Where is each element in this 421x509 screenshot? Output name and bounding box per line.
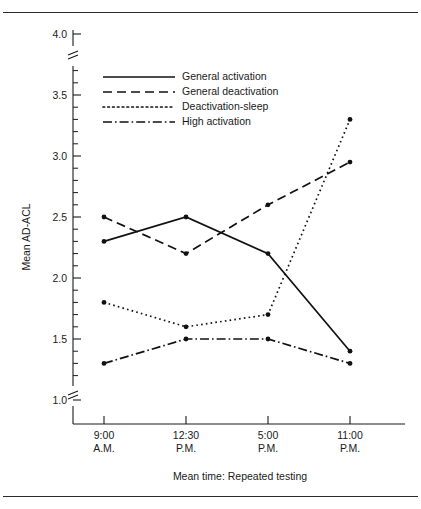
series-line-3	[104, 339, 350, 363]
x-tick-label: P.M.	[258, 442, 278, 454]
line-chart: 1.01.52.02.53.03.54.0 9:00A.M.12:30P.M.5…	[0, 12, 421, 496]
data-point	[348, 160, 353, 165]
data-point	[266, 202, 271, 207]
y-tick-label: 1.5	[52, 333, 67, 345]
x-tick-label: 9:00	[94, 429, 115, 441]
x-tick-label: 5:00	[258, 429, 279, 441]
series-line-0	[104, 217, 350, 351]
legend-label-2: Deactivation-sleep	[182, 100, 269, 112]
y-axis-title: Mean AD-ACL	[20, 203, 32, 270]
y-tick-label: 2.0	[52, 272, 67, 284]
y-tick-label: 3.5	[52, 89, 67, 101]
x-tick-label: A.M.	[93, 442, 115, 454]
legend-label-0: General activation	[182, 70, 267, 82]
bottom-rule	[3, 496, 418, 497]
data-point	[184, 215, 189, 220]
y-tick-label: 2.5	[52, 211, 67, 223]
x-tick-label: P.M.	[176, 442, 196, 454]
data-point	[266, 312, 271, 317]
data-point	[184, 337, 189, 342]
data-point	[102, 300, 107, 305]
data-point	[266, 251, 271, 256]
data-point	[102, 215, 107, 220]
x-tick-label: 11:00	[337, 429, 363, 441]
figure-caption-fragment	[4, 0, 418, 9]
legend-label-1: General deactivation	[182, 85, 278, 97]
legend-label-3: High activation	[182, 115, 251, 127]
data-point	[102, 361, 107, 366]
x-axis: 9:00A.M.12:30P.M.5:00P.M.11:00P.M.	[73, 416, 405, 454]
data-point	[266, 337, 271, 342]
x-tick-label: P.M.	[340, 442, 360, 454]
data-point	[348, 361, 353, 366]
y-tick-label: 3.0	[52, 150, 67, 162]
data-point	[102, 239, 107, 244]
series-line-2	[104, 119, 350, 326]
data-point	[348, 349, 353, 354]
x-axis-title: Mean time: Repeated testing	[173, 470, 307, 482]
figure-container: 1.01.52.02.53.03.54.0 9:00A.M.12:30P.M.5…	[0, 0, 421, 509]
y-tick-label: 1.0	[52, 394, 67, 406]
data-point	[348, 117, 353, 122]
data-point	[184, 251, 189, 256]
series-layer	[102, 117, 353, 366]
chart-legend: General activationGeneral deactivationDe…	[103, 70, 278, 127]
data-point	[184, 324, 189, 329]
x-tick-label: 12:30	[173, 429, 199, 441]
y-tick-label: 4.0	[52, 28, 67, 40]
y-axis: 1.01.52.02.53.03.54.0	[52, 28, 81, 424]
